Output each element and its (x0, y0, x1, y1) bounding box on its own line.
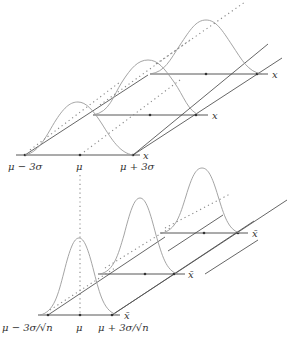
sampling-distribution-diagram: x x x μ − 3σ μ μ + 3σ (0, 0, 299, 340)
top-panel-population: x x x μ − 3σ μ μ + 3σ (8, 2, 282, 172)
diag-line-bottom-right (112, 200, 287, 315)
normal-curve-front (25, 102, 133, 155)
axis-label-x-middle: x (212, 110, 218, 121)
tick-label-mu-bottom: μ (76, 322, 83, 333)
narrow-curve-middle (100, 198, 178, 274)
tick-label-mu-minus-3sigma: μ − 3σ (8, 161, 44, 172)
tick-label-mu-plus-3sigma: μ + 3σ (120, 161, 156, 172)
diag-line-bottom-mid2 (205, 240, 258, 274)
tick-label-mu-plus-3sigma-sqrt-n: μ + 3σ/√n (98, 322, 149, 333)
axis-label-xbar-front: x̄ (124, 310, 130, 321)
diag-line-bottom-left (48, 237, 165, 315)
normal-curve-back (150, 20, 262, 74)
axis-label-xbar-middle: x̄ (188, 269, 194, 280)
axis-label-x-front: x (143, 150, 149, 161)
dotted-line-bottom-back (165, 194, 230, 228)
axis-label-xbar-back: x̄ (252, 228, 258, 239)
tick-label-mu-minus-3sigma-sqrt-n: μ − 3σ/√n (2, 322, 53, 333)
normal-curve-middle (93, 60, 200, 115)
bottom-panel-sample-mean: x̄ x̄ x̄ μ − 3σ/√n μ μ + 3σ/√n (2, 168, 287, 333)
dotted-line-back (156, 2, 245, 64)
dotted-line-front-2 (84, 80, 180, 152)
axis-label-x-back: x (272, 69, 278, 80)
tick-label-mu: μ (76, 161, 83, 172)
